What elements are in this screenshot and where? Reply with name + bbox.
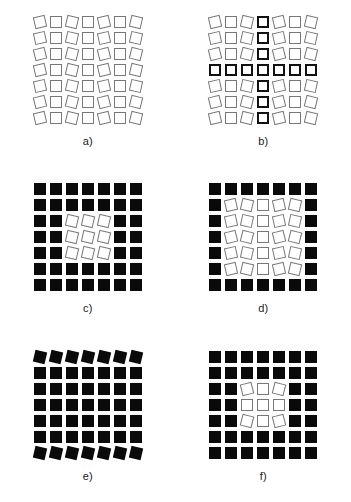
cell xyxy=(223,181,239,197)
cell xyxy=(271,397,287,413)
cell xyxy=(48,213,64,229)
square-d-r6c4 xyxy=(257,263,269,275)
cell xyxy=(239,181,255,197)
cell xyxy=(303,381,319,397)
square-b-r4c2 xyxy=(225,64,237,76)
cell xyxy=(32,14,48,30)
cell xyxy=(32,349,48,365)
square-f-r5c4 xyxy=(257,415,269,427)
square-c-r2c2 xyxy=(50,199,62,211)
cell xyxy=(303,365,319,381)
square-b-r2c4 xyxy=(257,32,269,44)
cell xyxy=(96,429,112,445)
cell xyxy=(32,94,48,110)
square-f-r1c6 xyxy=(289,351,301,363)
cell xyxy=(287,94,303,110)
square-d-r4c4 xyxy=(257,231,269,243)
square-a-r4c2 xyxy=(50,64,62,76)
cell xyxy=(80,381,96,397)
panel-c: c) xyxy=(0,167,176,334)
square-c-r5c1 xyxy=(34,247,46,259)
stimulus-b xyxy=(207,14,319,126)
square-b-r4c5 xyxy=(273,64,285,76)
square-c-r1c2 xyxy=(50,183,62,195)
cell xyxy=(80,229,96,245)
square-c-r4c3 xyxy=(65,230,79,244)
cell xyxy=(207,78,223,94)
square-f-r2c3 xyxy=(241,367,253,379)
square-f-r6c6 xyxy=(289,431,301,443)
cell xyxy=(96,277,112,293)
square-e-r3c2 xyxy=(50,383,62,395)
cell xyxy=(239,413,255,429)
cell xyxy=(207,445,223,461)
cell xyxy=(223,30,239,46)
cell xyxy=(48,397,64,413)
cell xyxy=(112,110,128,126)
cell xyxy=(287,245,303,261)
cell xyxy=(96,349,112,365)
cell xyxy=(303,261,319,277)
cell xyxy=(32,429,48,445)
cell xyxy=(128,197,144,213)
cell xyxy=(64,213,80,229)
square-c-r1c4 xyxy=(82,183,94,195)
cell xyxy=(287,445,303,461)
square-c-r5c4 xyxy=(81,246,95,260)
square-d-r7c5 xyxy=(273,279,285,291)
cell xyxy=(64,14,80,30)
cell xyxy=(271,429,287,445)
cell xyxy=(271,381,287,397)
cell xyxy=(80,30,96,46)
square-d-r5c6 xyxy=(288,246,302,260)
cell xyxy=(32,213,48,229)
cell xyxy=(32,413,48,429)
cell xyxy=(48,349,64,365)
cell xyxy=(207,277,223,293)
square-e-r2c5 xyxy=(98,367,110,379)
square-d-r3c1 xyxy=(209,215,221,227)
square-c-r2c5 xyxy=(98,199,110,211)
square-b-r7c1 xyxy=(208,111,222,125)
cell xyxy=(64,277,80,293)
square-b-r6c2 xyxy=(225,96,237,108)
cell xyxy=(112,62,128,78)
square-e-r2c1 xyxy=(34,367,46,379)
cell xyxy=(287,181,303,197)
square-b-r7c3 xyxy=(240,111,254,125)
cell xyxy=(255,78,271,94)
cell xyxy=(128,62,144,78)
cell xyxy=(239,365,255,381)
square-c-r4c6 xyxy=(114,231,126,243)
cell xyxy=(112,14,128,30)
cell xyxy=(128,46,144,62)
cell xyxy=(32,78,48,94)
square-b-r4c3 xyxy=(241,64,253,76)
square-c-r4c7 xyxy=(130,231,142,243)
stimulus-d xyxy=(207,181,319,293)
cell xyxy=(112,381,128,397)
cell xyxy=(207,110,223,126)
square-f-r7c1 xyxy=(209,447,221,459)
cell xyxy=(303,94,319,110)
square-d-r4c7 xyxy=(305,231,317,243)
square-c-r7c3 xyxy=(66,279,78,291)
cell xyxy=(32,229,48,245)
panel-b: b) xyxy=(176,0,351,167)
square-e-r1c6 xyxy=(113,349,127,363)
square-d-r6c6 xyxy=(288,262,302,276)
square-d-r3c6 xyxy=(288,214,302,228)
cell xyxy=(303,62,319,78)
cell xyxy=(287,197,303,213)
square-e-r4c2 xyxy=(50,399,62,411)
square-a-r4c7 xyxy=(129,63,143,77)
square-a-r1c2 xyxy=(50,16,62,28)
square-d-r4c1 xyxy=(209,231,221,243)
square-a-r5c7 xyxy=(129,79,143,93)
cell xyxy=(80,62,96,78)
square-e-r4c7 xyxy=(130,399,142,411)
cell xyxy=(223,349,239,365)
stimulus-c xyxy=(32,181,144,293)
cell xyxy=(255,110,271,126)
square-d-r4c3 xyxy=(240,230,255,245)
